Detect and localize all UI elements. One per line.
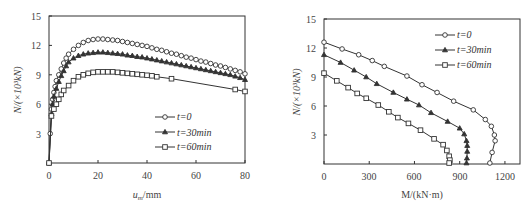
- square-marker-icon: [346, 85, 351, 90]
- chart-interaction-curve: 15 12 9 6 3 0 300 600 900 1200 M/(kN·m) …: [291, 14, 520, 201]
- circle-marker-icon: [370, 58, 375, 63]
- legend-triangle-marker-icon: [443, 47, 448, 51]
- left-x-axis-label: um/mm: [133, 189, 162, 202]
- circle-marker-icon: [189, 56, 194, 61]
- square-marker-icon: [110, 70, 115, 75]
- triangle-marker-icon: [130, 53, 135, 57]
- series-square: [322, 71, 452, 166]
- square-marker-icon: [49, 114, 54, 119]
- left-xtick-20: 20: [93, 170, 103, 181]
- left-legend-label-t30: t=30min: [177, 127, 212, 138]
- triangle-marker-icon: [189, 64, 194, 68]
- triangle-marker-icon: [238, 75, 243, 79]
- circle-marker-icon: [420, 82, 425, 87]
- square-marker-icon: [81, 73, 86, 78]
- circle-marker-icon: [492, 133, 497, 138]
- circle-marker-icon: [179, 53, 184, 58]
- square-marker-icon: [96, 70, 101, 75]
- square-marker-icon: [155, 74, 160, 79]
- right-ytick-15: 15: [306, 14, 316, 25]
- square-marker-icon: [432, 137, 437, 142]
- triangle-marker-icon: [154, 58, 159, 62]
- circle-marker-icon: [76, 43, 81, 48]
- triangle-marker-icon: [115, 51, 120, 55]
- square-marker-icon: [335, 79, 340, 84]
- right-axis-ticks: [324, 19, 505, 164]
- square-marker-icon: [101, 70, 106, 75]
- triangle-marker-icon: [198, 66, 203, 70]
- triangle-marker-icon: [445, 119, 450, 123]
- triangle-marker-icon: [416, 102, 421, 106]
- triangle-marker-icon: [91, 50, 96, 54]
- legend-square-marker-icon: [443, 63, 448, 68]
- circle-marker-icon: [164, 49, 169, 54]
- square-marker-icon: [135, 72, 140, 77]
- left-legend-label-t0: t=0: [177, 111, 192, 122]
- triangle-marker-icon: [135, 54, 140, 58]
- square-marker-icon: [364, 96, 369, 101]
- circle-marker-icon: [228, 67, 233, 72]
- circle-marker-icon: [238, 70, 243, 75]
- square-marker-icon: [52, 107, 57, 112]
- right-x-axis-label: M/(kN·m): [401, 189, 443, 201]
- circle-marker-icon: [199, 59, 204, 64]
- square-marker-icon: [115, 70, 120, 75]
- left-series-group: [47, 37, 248, 166]
- legend-circle-marker-icon: [443, 33, 448, 38]
- circle-marker-icon: [71, 47, 76, 52]
- circle-marker-icon: [155, 47, 160, 52]
- left-legend-label-t60: t=60min: [177, 141, 212, 152]
- square-marker-icon: [441, 142, 446, 147]
- right-xtick-900: 900: [453, 171, 468, 182]
- circle-marker-icon: [120, 39, 125, 44]
- square-marker-icon: [376, 103, 381, 108]
- right-y-axis-label: N/(×10³kN): [291, 68, 303, 117]
- triangle-marker-icon: [338, 60, 343, 64]
- square-marker-icon: [86, 71, 91, 76]
- triangle-marker-icon: [174, 61, 179, 65]
- circle-marker-icon: [159, 48, 164, 53]
- triangle-marker-icon: [464, 160, 469, 164]
- circle-marker-icon: [488, 161, 493, 166]
- square-marker-icon: [396, 115, 401, 120]
- circle-marker-icon: [150, 46, 155, 51]
- left-ytick-9: 9: [36, 70, 41, 81]
- triangle-marker-icon: [223, 71, 228, 75]
- triangle-marker-icon: [218, 70, 223, 74]
- circle-marker-icon: [174, 52, 179, 57]
- square-marker-icon: [233, 87, 238, 92]
- circle-marker-icon: [135, 42, 140, 47]
- triangle-marker-icon: [465, 143, 470, 147]
- right-xtick-600: 600: [407, 171, 422, 182]
- left-axis-ticks: [49, 16, 245, 163]
- circle-marker-icon: [233, 68, 238, 73]
- triangle-marker-icon: [243, 77, 248, 81]
- circle-marker-icon: [356, 52, 361, 57]
- triangle-marker-icon: [96, 50, 101, 54]
- circle-marker-icon: [483, 117, 488, 122]
- circle-marker-icon: [125, 40, 130, 45]
- circle-marker-icon: [382, 64, 387, 69]
- circle-marker-icon: [471, 108, 476, 113]
- circle-marker-icon: [106, 37, 111, 42]
- series-line: [49, 72, 245, 163]
- triangle-marker-icon: [120, 52, 125, 56]
- triangle-marker-icon: [159, 58, 164, 62]
- right-ytick-3: 3: [311, 130, 316, 141]
- square-marker-icon: [54, 102, 59, 107]
- square-marker-icon: [447, 161, 452, 166]
- right-xtick-1200: 1200: [495, 171, 515, 182]
- triangle-marker-icon: [322, 52, 327, 56]
- circle-marker-icon: [213, 63, 218, 68]
- circle-marker-icon: [194, 57, 199, 62]
- right-ytick-9: 9: [311, 72, 316, 83]
- legend-triangle-marker-icon: [163, 129, 168, 133]
- right-legend-label-t0: t=0: [457, 29, 472, 40]
- square-marker-icon: [418, 128, 423, 133]
- triangle-marker-icon: [169, 60, 174, 64]
- triangle-marker-icon: [86, 51, 91, 55]
- chart-load-displacement: 15 12 9 6 3 0 20 40 60 80 um/mm N/(×10³k…: [12, 11, 250, 202]
- circle-marker-icon: [208, 61, 213, 66]
- triangle-marker-icon: [105, 50, 110, 54]
- triangle-marker-icon: [110, 51, 115, 55]
